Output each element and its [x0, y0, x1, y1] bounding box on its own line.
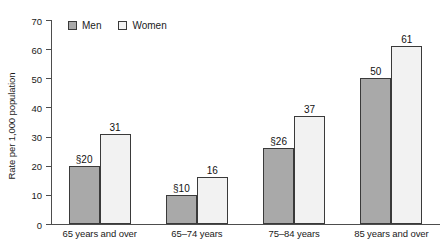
y-axis-tick-label: 50 — [31, 73, 42, 84]
bar-women-2: 37 — [294, 116, 325, 224]
bar-men-0: §20 — [69, 166, 100, 224]
y-axis-tick-label: 10 — [31, 190, 42, 201]
y-axis-tick: 0 — [46, 224, 51, 225]
plot-area: 706050403020100 §2031§1016§26375061 65 y… — [51, 20, 440, 224]
x-axis-category-label: 65 years and over — [62, 228, 136, 239]
y-axis-tick-label: 60 — [31, 44, 42, 55]
bar-men-2: §26 — [263, 148, 294, 224]
legend-item-women: Women — [118, 20, 166, 31]
bar-value-label: §26 — [270, 136, 287, 147]
bar-value-label: §20 — [76, 154, 93, 165]
y-axis-line — [51, 20, 52, 224]
y-axis-tick: 40 — [46, 107, 51, 108]
legend-label: Men — [82, 20, 101, 31]
bar-value-label: 31 — [110, 122, 121, 133]
y-axis-tick-label: 0 — [37, 219, 42, 230]
x-axis-category-label: 65–74 years — [171, 228, 222, 239]
bar-women-1: 16 — [197, 177, 228, 224]
bar-women-3: 61 — [391, 46, 422, 224]
bar-value-label: 50 — [370, 66, 381, 77]
legend-item-men: Men — [68, 20, 101, 31]
bar-value-label: 16 — [207, 165, 218, 176]
y-axis-tick-label: 20 — [31, 161, 42, 172]
bar-chart: Rate per 1,000 population 70605040302010… — [0, 0, 447, 252]
bar-men-3: 50 — [360, 78, 391, 224]
y-axis-title: Rate per 1,000 population — [0, 0, 22, 252]
legend-swatch-icon — [118, 21, 127, 30]
y-axis-tick: 30 — [46, 137, 51, 138]
bar-value-label: 37 — [304, 104, 315, 115]
x-axis-category-label: 85 years and over — [354, 228, 428, 239]
x-axis-line — [51, 224, 440, 225]
y-axis-tick: 70 — [46, 20, 51, 21]
bar-value-label: §10 — [173, 183, 190, 194]
bar-women-0: 31 — [100, 134, 131, 224]
y-axis-tick: 60 — [46, 49, 51, 50]
legend-label: Women — [132, 20, 166, 31]
y-axis-tick-label: 70 — [31, 15, 42, 26]
bar-men-1: §10 — [166, 195, 197, 224]
y-axis-tick-label: 30 — [31, 132, 42, 143]
x-axis-category-label: 75–84 years — [269, 228, 320, 239]
legend-swatch-icon — [68, 21, 77, 30]
legend: MenWomen — [68, 20, 167, 31]
bar-value-label: 61 — [401, 34, 412, 45]
y-axis-tick: 20 — [46, 166, 51, 167]
y-axis-tick-label: 40 — [31, 102, 42, 113]
y-axis-tick: 50 — [46, 78, 51, 79]
y-axis-tick: 10 — [46, 195, 51, 196]
